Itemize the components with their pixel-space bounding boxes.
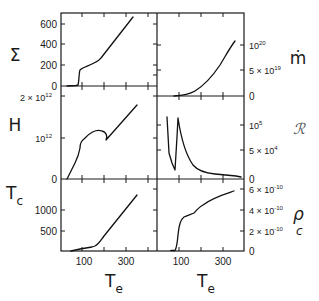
figure-canvas: 600 400 200 0 Σ 2 × 1012 1012 0 H 1000 5… (0, 0, 319, 301)
r-curve (167, 117, 241, 177)
r-tick-5e4: 5 × 104 (249, 145, 278, 156)
rhoc-tick-2e-10: 2 × 10-10 (249, 226, 284, 237)
tc-curve (71, 195, 137, 251)
mdot-tick-0: 0 (249, 91, 255, 102)
rhoc-tick-4e-10: 4 × 10-10 (249, 205, 284, 216)
h-axis-label: H (9, 115, 22, 135)
rhoc-tick-6e-10: 6 × 10-10 (249, 184, 284, 195)
rhoc-axis-label: ρc (293, 204, 304, 238)
tc-tick-500: 500 (40, 226, 57, 237)
r-axis-label: ℛ (293, 120, 306, 138)
sigma-tick-600: 600 (40, 19, 57, 30)
left-x-axis-label: Te (104, 271, 123, 296)
y-ticks (61, 24, 244, 231)
h-curve (67, 105, 137, 179)
h-tick-0: 0 (51, 174, 57, 185)
left-x-tick-300: 300 (118, 256, 135, 267)
h-tick-1e12: 1012 (35, 133, 52, 144)
tc-tick-1000: 1000 (35, 205, 58, 216)
r-tick-0: 0 (249, 174, 255, 185)
tc-axis-label: Tc (5, 183, 23, 208)
rhoc-tick-0: 0 (249, 246, 255, 257)
right-x-tick-100: 100 (173, 256, 190, 267)
mdot-axis-label: ṁ (290, 48, 307, 68)
sigma-tick-0: 0 (51, 81, 57, 92)
right-x-tick-300: 300 (215, 256, 232, 267)
rhoc-curve (171, 191, 234, 251)
sigma-tick-200: 200 (40, 60, 57, 71)
r-tick-1e5: 105 (249, 120, 263, 131)
figure-frame (61, 13, 244, 251)
sigma-axis-label: Σ (10, 45, 21, 65)
mdot-tick-1e20: 1020 (249, 40, 266, 51)
mdot-tick-5e19: 5 × 1019 (249, 65, 282, 76)
h-tick-2e12: 2 × 1012 (20, 92, 53, 103)
left-x-tick-100: 100 (76, 256, 93, 267)
sigma-curve (67, 17, 133, 86)
sigma-tick-400: 400 (40, 39, 57, 50)
right-x-axis-label: Te (196, 271, 215, 296)
mdot-curve (174, 41, 235, 96)
